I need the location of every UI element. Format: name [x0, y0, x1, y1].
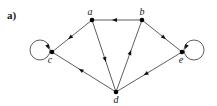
arrowhead-icon [112, 18, 117, 22]
edge-line [92, 20, 116, 92]
edge-line [116, 20, 142, 92]
edge-d-to-b [116, 20, 142, 92]
panel-label: a) [7, 9, 17, 22]
edge-line [52, 20, 92, 52]
edge-line [116, 52, 182, 92]
arrowhead-icon [185, 44, 189, 49]
node-label-a: a [88, 6, 93, 17]
edge-a-to-d [92, 20, 116, 92]
self-loop-e [184, 40, 204, 60]
node-label-b: b [140, 6, 145, 17]
node-a: a [88, 6, 95, 22]
edge-b-to-e [142, 20, 182, 52]
node-b: b [140, 6, 145, 22]
node-e: e [179, 50, 185, 65]
edge-b-to-a [92, 18, 142, 22]
arrowhead-icon [144, 71, 149, 75]
edge-line [142, 20, 182, 52]
arrowhead-icon [103, 57, 107, 62]
edge-e-to-d [116, 52, 182, 92]
node-dot [90, 18, 95, 23]
edge-e-to-e [184, 40, 204, 60]
arrowhead-icon [79, 69, 84, 73]
arrowhead-icon [128, 50, 132, 55]
node-d: d [114, 90, 120, 105]
edge-line [52, 52, 116, 92]
node-c: c [48, 50, 55, 65]
node-label-e: e [179, 54, 184, 65]
arrowhead-icon [45, 44, 49, 49]
node-label-c: c [48, 54, 53, 65]
node-label-d: d [114, 94, 120, 105]
directed-graph-diagram: a) abcde [0, 0, 217, 106]
node-dot [140, 18, 145, 23]
edge-a-to-c [52, 20, 92, 52]
edge-d-to-c [52, 52, 116, 92]
